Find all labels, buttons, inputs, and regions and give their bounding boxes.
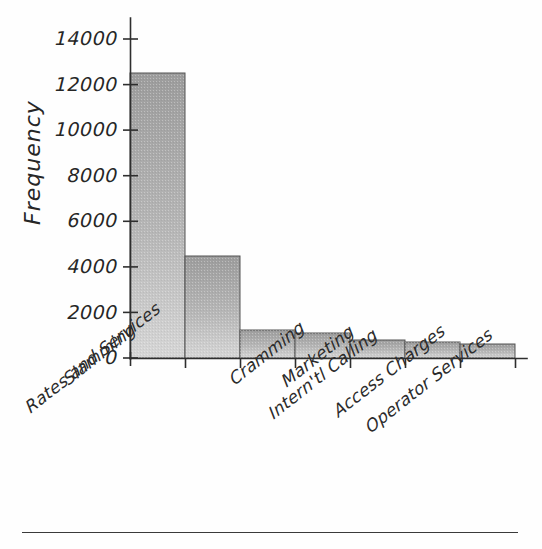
y-tick-label-2000: 2000 [17,301,118,323]
y-axis-title: Frequency [20,93,45,233]
y-tick-label-14000: 14000 [17,27,118,49]
y-tick-label-4000: 4000 [17,255,118,277]
bottom-divider-rule [22,532,518,533]
figure-canvas: 14000 12000 10000 8000 6000 4000 2000 0 … [0,0,542,549]
bars-group [130,73,515,358]
bar-rates-and-services [185,256,240,358]
